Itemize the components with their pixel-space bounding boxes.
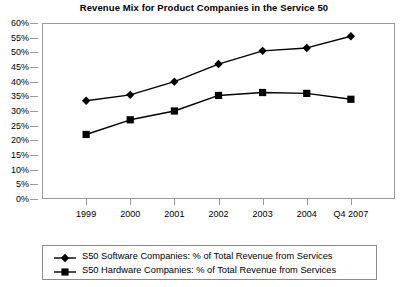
y-tick-label: 25% bbox=[1, 121, 29, 130]
y-tick-label: 60% bbox=[1, 19, 29, 28]
y-tick-label: 0% bbox=[1, 195, 29, 204]
y-tick-label: 55% bbox=[1, 33, 29, 42]
x-tick-mark bbox=[130, 199, 131, 205]
x-tick-mark bbox=[86, 199, 87, 205]
y-tick-label: 50% bbox=[1, 48, 29, 57]
x-tick-mark bbox=[263, 199, 264, 205]
legend-item: S50 Hardware Companies: % of Total Reven… bbox=[53, 263, 336, 277]
chart-legend: S50 Software Companies: % of Total Reven… bbox=[42, 245, 377, 280]
y-tick-label: 5% bbox=[1, 180, 29, 189]
y-tick-label: 30% bbox=[1, 107, 29, 116]
y-tick-mark bbox=[30, 96, 38, 97]
y-tick-mark bbox=[30, 52, 38, 53]
square-marker-icon bbox=[53, 264, 77, 276]
y-tick-label: 35% bbox=[1, 92, 29, 101]
y-tick-mark bbox=[30, 111, 38, 112]
y-tick-mark bbox=[30, 170, 38, 171]
y-tick-mark bbox=[30, 38, 38, 39]
y-tick-label: 40% bbox=[1, 77, 29, 86]
y-tick-mark bbox=[30, 23, 38, 24]
x-axis: 199920002001200220032004Q4 2007 bbox=[42, 199, 395, 229]
x-tick-label: Q4 2007 bbox=[321, 209, 381, 219]
y-tick-mark bbox=[30, 199, 38, 200]
x-tick-mark bbox=[174, 199, 175, 205]
y-tick-mark bbox=[30, 184, 38, 185]
y-tick-label: 15% bbox=[1, 151, 29, 160]
y-tick-mark bbox=[30, 126, 38, 127]
y-tick-mark bbox=[30, 155, 38, 156]
y-axis: 60%55%50%45%40%35%30%25%20%15%10%5%0% bbox=[0, 0, 42, 287]
legend-item: S50 Software Companies: % of Total Reven… bbox=[53, 249, 332, 263]
x-tick-mark bbox=[307, 199, 308, 205]
legend-label: S50 Hardware Companies: % of Total Reven… bbox=[82, 264, 336, 276]
y-tick-label: 45% bbox=[1, 63, 29, 72]
plot-area bbox=[42, 23, 395, 199]
y-tick-mark bbox=[30, 82, 38, 83]
y-tick-mark bbox=[30, 67, 38, 68]
diamond-marker-icon bbox=[53, 250, 77, 262]
y-tick-mark bbox=[30, 140, 38, 141]
y-tick-label: 20% bbox=[1, 136, 29, 145]
x-tick-mark bbox=[351, 199, 352, 205]
chart-title: Revenue Mix for Product Companies in the… bbox=[0, 2, 408, 14]
legend-label: S50 Software Companies: % of Total Reven… bbox=[82, 250, 332, 262]
y-tick-label: 10% bbox=[1, 165, 29, 174]
x-tick-mark bbox=[219, 199, 220, 205]
